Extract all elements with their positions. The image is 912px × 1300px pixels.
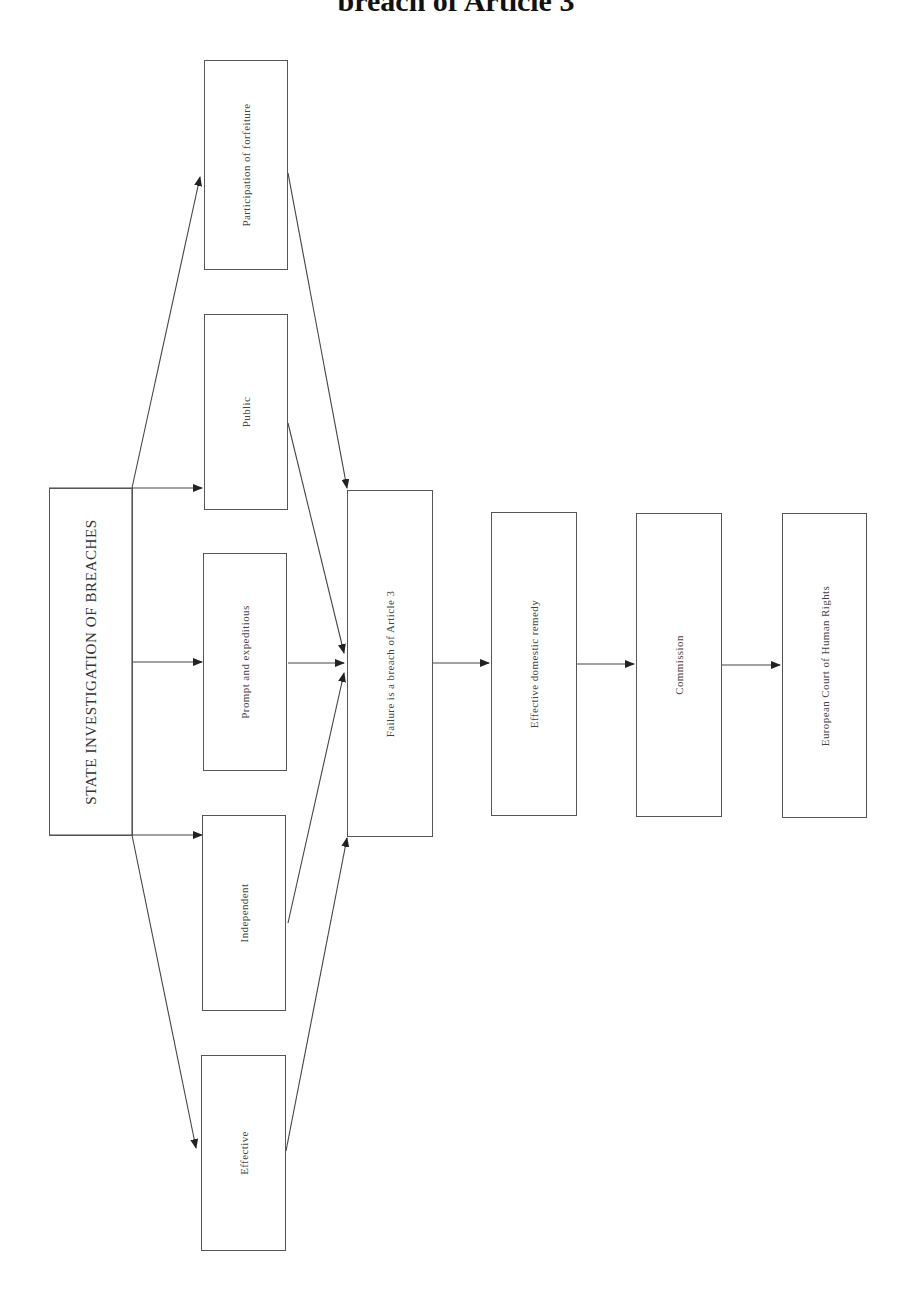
node-public: Public: [204, 314, 288, 510]
node-label: Independent: [238, 884, 250, 943]
node-commission: Commission: [636, 513, 722, 817]
node-label: STATE INVESTIGATION OF BREACHES: [83, 519, 100, 804]
node-label: Effective: [238, 1131, 250, 1175]
node-european-court-of-human-rights: European Court of Human Rights: [782, 513, 867, 818]
edge-independent-failure: [288, 673, 344, 923]
edge-effective-failure: [286, 838, 347, 1151]
node-effective: Effective: [201, 1055, 286, 1251]
node-label: Effective domestic remedy: [528, 600, 540, 728]
connector-layer: [0, 0, 912, 1300]
node-independent: Independent: [202, 815, 286, 1011]
node-effective-domestic-remedy: Effective domestic remedy: [491, 512, 577, 816]
node-label: Failure is a breach of Article 3: [384, 590, 396, 737]
node-label: Public: [240, 397, 252, 428]
node-failure: Failure is a breach of Article 3: [347, 490, 433, 837]
node-prompt: Prompt and expeditious: [203, 553, 287, 771]
node-state-investigation: STATE INVESTIGATION OF BREACHES: [49, 488, 133, 836]
node-participation: Participation of forfeiture: [204, 60, 288, 270]
edge-state-effective: [132, 835, 196, 1148]
edge-state-participation: [132, 177, 200, 488]
node-label: Commission: [673, 635, 685, 695]
edge-participation-failure: [288, 173, 347, 488]
edge-public-failure: [288, 423, 344, 653]
node-label: Participation of forfeiture: [240, 103, 252, 226]
node-label: European Court of Human Rights: [819, 585, 831, 745]
node-label: Prompt and expeditious: [239, 605, 251, 718]
